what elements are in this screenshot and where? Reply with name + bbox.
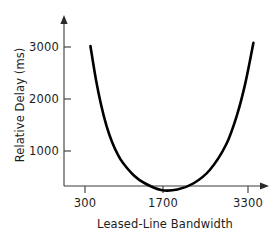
y-tick-label-3000: 3000 bbox=[29, 40, 59, 54]
chart-plot-area: 3000 2000 1000 300 1700 3300 Leased-Line… bbox=[0, 0, 280, 238]
x-axis-arrowhead bbox=[260, 182, 269, 189]
x-tick-label-3300: 3300 bbox=[233, 196, 263, 210]
y-tick-label-1000: 1000 bbox=[29, 144, 59, 158]
x-tick-label-300: 300 bbox=[74, 196, 97, 210]
y-tick-label-2000: 2000 bbox=[29, 92, 59, 106]
y-axis-arrowhead bbox=[60, 15, 67, 24]
x-tick-label-1700: 1700 bbox=[148, 196, 178, 210]
y-axis-title: Relative Delay (ms) bbox=[13, 48, 27, 163]
x-axis-title: Leased-Line Bandwidth bbox=[97, 217, 233, 231]
chart-figure: 3000 2000 1000 300 1700 3300 Leased-Line… bbox=[0, 0, 280, 238]
delay-curve bbox=[90, 43, 253, 191]
